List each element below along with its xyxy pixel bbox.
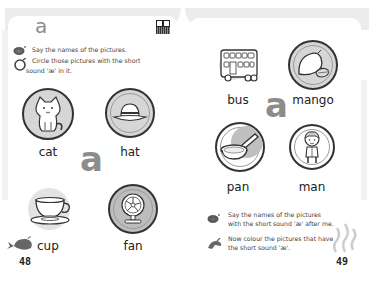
- word-pan: pan: [218, 181, 258, 193]
- instruction-colour-line2: the short sound 'æ'.: [228, 243, 290, 252]
- word-mango: mango: [285, 94, 341, 106]
- big-letter-a: a: [265, 88, 288, 122]
- page-number-left: 48: [19, 256, 31, 267]
- word-bus: bus: [218, 94, 258, 106]
- qr-code-icon[interactable]: [156, 20, 170, 34]
- instruction-say-line1: Say the names of the pictures: [228, 210, 321, 219]
- fan-picture[interactable]: [108, 184, 158, 234]
- word-fan: fan: [113, 240, 153, 252]
- speaking-shell-icon: [13, 45, 27, 56]
- bus-icon: [218, 47, 260, 83]
- left-page: a Say the names of the pictures. Circle …: [0, 0, 185, 282]
- colouring-hand-icon: [207, 238, 223, 250]
- cat-picture[interactable]: [22, 88, 74, 140]
- big-letter-a: a: [80, 142, 103, 176]
- fan-icon: [117, 191, 149, 227]
- mango-picture[interactable]: [288, 40, 338, 90]
- man-icon: [300, 129, 324, 165]
- mango-icon: [294, 48, 332, 82]
- hat-icon: [111, 100, 149, 126]
- header-letter: a: [35, 16, 47, 36]
- word-cat: cat: [28, 146, 68, 158]
- cup-icon: [28, 192, 76, 228]
- speaking-shell-icon: [207, 213, 221, 224]
- cat-icon: [28, 94, 68, 134]
- instruction-say-line2: with the short sound 'æ' after me.: [228, 219, 334, 228]
- circle-pencil-icon: [13, 58, 27, 72]
- instruction-circle-line2: sound 'æ' in it.: [26, 66, 72, 75]
- instruction-colour-line1: Now colour the pictures that have: [228, 234, 333, 243]
- pan-icon: [219, 132, 261, 162]
- bus-picture[interactable]: [218, 47, 260, 83]
- whale-icon: [6, 236, 34, 252]
- workbook-spread: a Say the names of the pictures. Circle …: [0, 0, 369, 282]
- pan-picture[interactable]: [215, 122, 265, 172]
- instruction-circle-line1: Circle those pictures with the short: [32, 56, 140, 65]
- cup-picture[interactable]: [28, 192, 76, 228]
- word-cup: cup: [37, 240, 65, 252]
- instruction-say-names: Say the names of the pictures.: [32, 45, 127, 54]
- man-picture[interactable]: [289, 124, 335, 170]
- word-hat: hat: [110, 146, 150, 158]
- hat-picture[interactable]: [105, 88, 155, 138]
- right-page: bus mango a pan: [185, 0, 369, 282]
- page-number-right: 49: [336, 256, 348, 267]
- word-man: man: [292, 181, 332, 193]
- steam-swirl-icon: [330, 222, 360, 254]
